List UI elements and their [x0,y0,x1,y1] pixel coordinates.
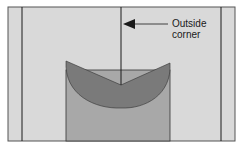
label-outside: Outside [172,18,207,29]
outside-corner-diagram: Outside corner [0,0,238,147]
label-corner: corner [172,29,201,40]
